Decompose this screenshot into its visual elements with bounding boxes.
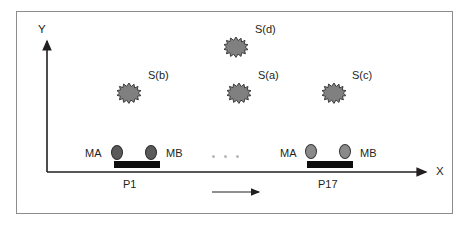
p1-sensor-ma-label: MA — [85, 148, 102, 159]
ellipsis-dot-3 — [236, 155, 239, 158]
ellipsis-dot-1 — [212, 155, 215, 158]
source-label-sc: S(c) — [352, 70, 372, 81]
source-label-sa: S(a) — [258, 70, 279, 81]
p1-sensor-mb-label: MB — [166, 148, 183, 159]
diagram-vector-layer — [0, 0, 471, 229]
platform-label-p1: P1 — [123, 179, 136, 190]
star-icon-sc — [321, 82, 347, 104]
diagram-canvas: Y X S(b) S(d) S(a) S(c) MA MB P1 MA MB P… — [0, 0, 471, 229]
platform-bar-p1 — [114, 161, 160, 168]
p17-sensor-ma-marker — [305, 144, 317, 159]
p17-sensor-mb-label: MB — [360, 148, 377, 159]
p1-sensor-ma-marker — [111, 145, 123, 160]
star-icon-sa — [226, 82, 252, 104]
source-label-sd: S(d) — [255, 24, 276, 35]
y-axis-label: Y — [38, 24, 46, 36]
star-icon-sb — [116, 82, 142, 104]
p1-sensor-mb-marker — [145, 145, 157, 160]
platform-bar-p17 — [307, 161, 353, 168]
source-label-sb: S(b) — [148, 70, 169, 81]
p17-sensor-ma-label: MA — [280, 148, 297, 159]
platform-label-p17: P17 — [318, 179, 338, 190]
star-icon-sd — [223, 36, 249, 58]
ellipsis-dot-2 — [224, 155, 227, 158]
x-axis-label: X — [436, 166, 444, 178]
p17-sensor-mb-marker — [339, 144, 351, 159]
